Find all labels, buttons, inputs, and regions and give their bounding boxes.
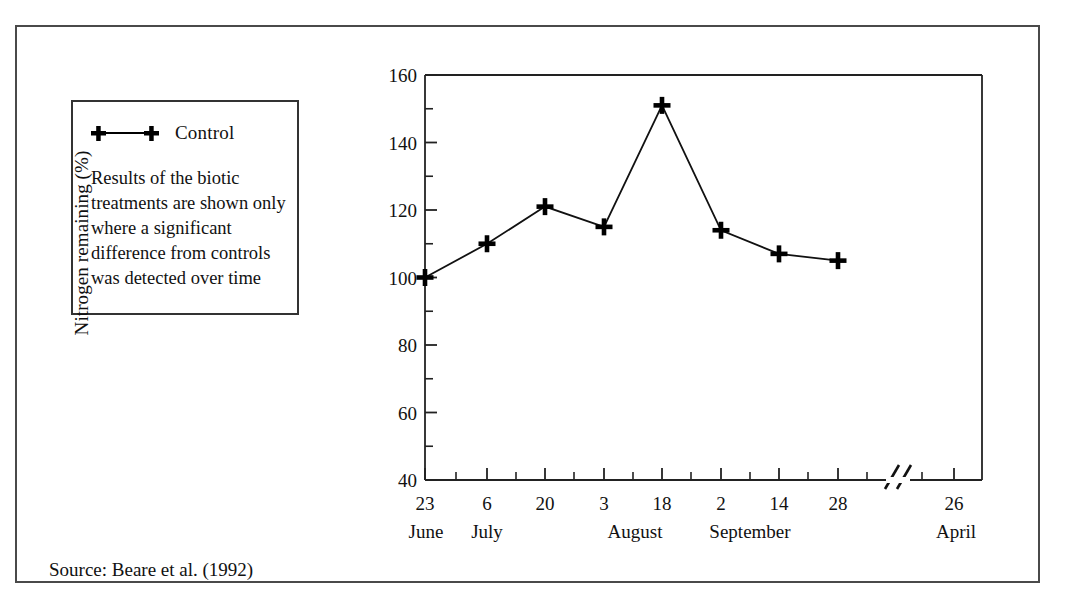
y-tick-label: 40 [398, 470, 417, 491]
x-tick-month: April [936, 521, 976, 542]
x-tick-day: 6 [482, 493, 492, 514]
y-tick-labels: 160 140 120 100 80 60 40 [389, 65, 418, 491]
axis-break-mask [886, 477, 910, 483]
data-point-marker [660, 97, 665, 114]
x-tick-day: 28 [829, 493, 848, 514]
y-tick-label: 120 [389, 200, 418, 221]
data-point-marker [777, 245, 782, 262]
x-tick-day: 26 [945, 493, 964, 514]
figure-container: Control Results of the biotic treatments… [0, 0, 1068, 615]
x-major-ticks [425, 468, 954, 480]
data-point-marker [485, 235, 490, 252]
data-point-marker [602, 218, 607, 235]
x-tick-day: 18 [653, 493, 672, 514]
series-markers-control [417, 97, 847, 286]
series-control [417, 97, 847, 286]
y-tick-label: 60 [398, 403, 417, 424]
y-tick-label: 140 [389, 133, 418, 154]
data-point-marker [836, 252, 841, 269]
x-tick-day: 2 [716, 493, 726, 514]
x-tick-day: 20 [536, 493, 555, 514]
y-tick-label: 160 [389, 65, 418, 86]
x-minor-ticks [456, 472, 922, 480]
x-tick-month: September [709, 521, 791, 542]
chart-plot: 160 140 120 100 80 60 40 [17, 27, 1038, 581]
x-tick-month: August [608, 521, 664, 542]
x-tick-day: 3 [599, 493, 609, 514]
axis-lines [425, 75, 982, 480]
x-tick-month: June [409, 521, 444, 542]
data-point-marker [543, 198, 548, 215]
y-tick-label: 100 [389, 268, 418, 289]
y-tick-label: 80 [398, 335, 417, 356]
x-tick-month: July [471, 521, 503, 542]
data-point-marker [423, 269, 428, 286]
x-tick-day: 23 [416, 493, 435, 514]
figure-outer-frame: Control Results of the biotic treatments… [15, 25, 1040, 583]
x-tick-day: 14 [770, 493, 790, 514]
x-tick-month-labels: June July August September April [409, 521, 976, 542]
x-tick-day-labels: 23 6 20 3 18 2 14 28 26 [416, 493, 964, 514]
data-point-marker [719, 222, 724, 239]
